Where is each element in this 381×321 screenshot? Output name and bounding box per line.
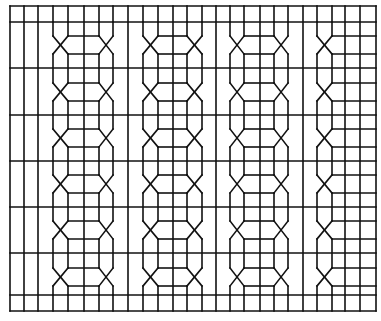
- chain-1: [53, 6, 113, 311]
- chain-3: [230, 6, 288, 311]
- half-chain: [317, 6, 376, 311]
- lattice-pattern: [0, 0, 381, 321]
- chain-2: [143, 6, 202, 311]
- octagon-chains: [53, 6, 288, 311]
- frame-lines: [10, 6, 376, 311]
